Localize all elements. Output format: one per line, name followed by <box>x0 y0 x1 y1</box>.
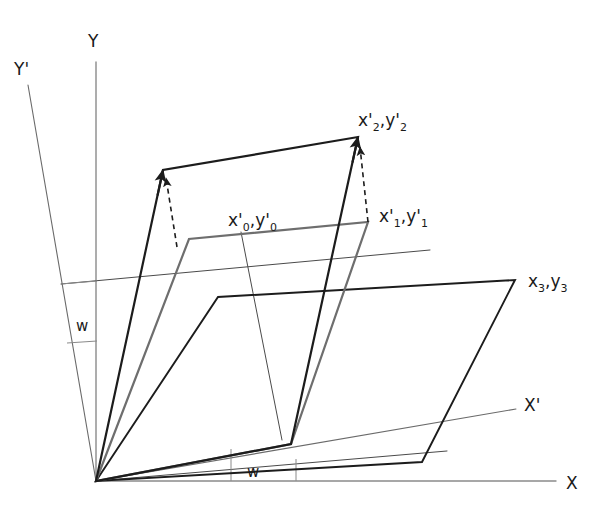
pl2-sub1: 2 <box>373 121 380 134</box>
pl0-sub2: 0 <box>270 221 277 234</box>
pl0-sub1: 0 <box>243 221 250 234</box>
angle-w-vertical-tick-upper <box>61 281 97 284</box>
x-prime-axis-label: X' <box>524 395 540 415</box>
y-prime-axis-label: Y' <box>13 59 29 79</box>
pl2-sep: ,y' <box>380 110 400 130</box>
drop-line-x0y0 <box>241 232 282 440</box>
pl0-base: x' <box>228 210 243 230</box>
x-prime-axis-line <box>96 409 516 481</box>
point-label-x2-y2: x'2,y'2 <box>358 110 407 134</box>
pl2-base: x' <box>358 110 373 130</box>
angle-w-horizontal-label: w <box>247 463 259 481</box>
pl3-base: x <box>528 271 538 291</box>
dashed-arrow-left <box>166 178 177 247</box>
pl3-sep: ,y <box>545 271 560 291</box>
axes-group <box>28 62 556 481</box>
pl1-base: x' <box>379 206 394 226</box>
angle-w-vertical-label: w <box>76 317 88 335</box>
pl0-sep: ,y' <box>250 210 270 230</box>
vertex-arrow-right <box>352 137 358 162</box>
vector-diagram: Y X Y' X' w w x'0,y'0 x'1,y'1 x'2,y'2 x3… <box>0 0 608 506</box>
pl1-sub2: 1 <box>421 217 428 230</box>
angle-labels-group: w w <box>76 317 259 481</box>
vertex-arrow-left <box>158 170 163 195</box>
point-label-x3-y3: x3,y3 <box>528 271 568 295</box>
point-label-x0-y0: x'0,y'0 <box>228 210 277 234</box>
lower-thin-guide-line <box>96 451 447 481</box>
rotated-tall-parallelogram <box>96 137 358 481</box>
diagram-canvas: Y X Y' X' w w x'0,y'0 x'1,y'1 x'2,y'2 x3… <box>0 0 608 506</box>
y-axis-label: Y <box>87 31 99 51</box>
pl2-sub2: 2 <box>400 121 407 134</box>
dashed-arrow-right <box>360 147 368 222</box>
pl1-sep: ,y' <box>401 206 421 226</box>
x-axis-label: X <box>566 473 578 493</box>
gray-inner-parallelogram <box>96 222 368 481</box>
guide-lines-group <box>61 232 447 481</box>
point-label-x1-y1: x'1,y'1 <box>379 206 428 230</box>
pl1-sub1: 1 <box>394 217 401 230</box>
pl3-sub2: 3 <box>561 282 568 295</box>
pl3-sub1: 3 <box>538 282 545 295</box>
y-prime-axis-line <box>28 85 96 481</box>
point-labels-group: x'0,y'0 x'1,y'1 x'2,y'2 x3,y3 <box>228 110 568 295</box>
